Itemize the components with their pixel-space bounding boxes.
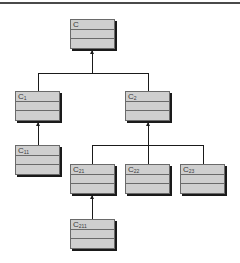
operations-compartment bbox=[16, 111, 59, 120]
class-name-subscript: 2 bbox=[134, 95, 137, 101]
operations-compartment bbox=[71, 239, 114, 248]
connector-c22-vertical bbox=[148, 145, 149, 164]
operations-compartment bbox=[16, 165, 59, 174]
class-name: C211 bbox=[71, 220, 114, 230]
class-box-c: C bbox=[70, 19, 115, 49]
top-rule bbox=[0, 2, 240, 4]
operations-compartment bbox=[71, 184, 114, 193]
arrow-head-icon bbox=[146, 122, 150, 126]
arrow-head-icon bbox=[90, 195, 94, 199]
attributes-compartment bbox=[16, 156, 59, 165]
arrow-head-icon bbox=[36, 122, 40, 126]
class-name: C2 bbox=[126, 92, 169, 102]
connector-c-horizontal bbox=[38, 73, 149, 74]
connector-c2-vertical bbox=[148, 73, 149, 91]
operations-compartment bbox=[181, 184, 224, 193]
operations-compartment bbox=[126, 111, 169, 120]
operations-compartment bbox=[71, 39, 114, 48]
class-name-subscript: 211 bbox=[79, 223, 87, 229]
connector-c21-vertical bbox=[92, 145, 93, 164]
connector-c23-vertical bbox=[203, 145, 204, 164]
connector-c1-vertical bbox=[38, 73, 39, 91]
class-box-c11: C11 bbox=[15, 145, 60, 175]
class-name: C1 bbox=[16, 92, 59, 102]
attributes-compartment bbox=[181, 175, 224, 184]
class-box-c23: C23 bbox=[180, 164, 225, 194]
class-name: C bbox=[71, 20, 114, 30]
class-name-subscript: 22 bbox=[134, 168, 140, 174]
attributes-compartment bbox=[71, 30, 114, 39]
class-name-text: C bbox=[73, 20, 79, 29]
class-box-c211: C211 bbox=[70, 219, 115, 249]
class-box-c21: C21 bbox=[70, 164, 115, 194]
class-name: C22 bbox=[126, 165, 169, 175]
class-name-subscript: 23 bbox=[189, 168, 195, 174]
class-name-subscript: 21 bbox=[79, 168, 85, 174]
class-box-c1: C1 bbox=[15, 91, 60, 121]
class-name: C23 bbox=[181, 165, 224, 175]
arrow-head-icon bbox=[90, 50, 94, 54]
class-name: C11 bbox=[16, 146, 59, 156]
class-name-subscript: 1 bbox=[24, 95, 27, 101]
attributes-compartment bbox=[126, 175, 169, 184]
attributes-compartment bbox=[71, 230, 114, 239]
class-box-c2: C2 bbox=[125, 91, 170, 121]
class-name-subscript: 11 bbox=[24, 149, 29, 155]
attributes-compartment bbox=[16, 102, 59, 111]
attributes-compartment bbox=[126, 102, 169, 111]
class-name: C21 bbox=[71, 165, 114, 175]
class-box-c22: C22 bbox=[125, 164, 170, 194]
attributes-compartment bbox=[71, 175, 114, 184]
operations-compartment bbox=[126, 184, 169, 193]
